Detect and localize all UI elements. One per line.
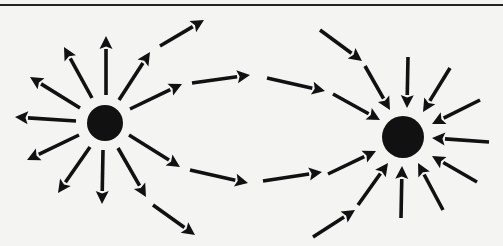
- arrow-shaft: [401, 179, 402, 218]
- arrow-shaft: [153, 205, 184, 227]
- arrow-shaft: [118, 148, 140, 186]
- arrowhead-icon: [401, 95, 414, 108]
- arrow-connecting: [263, 168, 322, 181]
- arrow-source-radial: [27, 135, 79, 160]
- arrow-connecting: [192, 70, 250, 83]
- arrow-shaft: [445, 139, 489, 142]
- arrow-connecting: [365, 66, 390, 110]
- arrow-source-radial: [129, 135, 180, 167]
- arrow-source-radial: [100, 36, 113, 95]
- arrow-source-radial: [15, 111, 76, 124]
- arrow-connecting: [320, 30, 362, 61]
- arrow-shaft: [320, 30, 352, 53]
- arrowhead-icon: [15, 111, 28, 124]
- arrow-sink-radial: [418, 163, 443, 210]
- arrow-connecting: [333, 94, 380, 120]
- arrow-shaft: [41, 84, 80, 108]
- arrow-connecting: [153, 205, 195, 235]
- arrowhead-icon: [236, 70, 250, 83]
- arrow-source-radial: [119, 52, 150, 100]
- sink-point: [382, 116, 424, 158]
- arrowhead-icon: [96, 191, 109, 204]
- arrow-source-radial: [118, 148, 146, 197]
- field-lines-diagram: [0, 0, 503, 246]
- arrow-shaft: [102, 150, 103, 191]
- arrowhead-icon: [311, 82, 325, 95]
- arrow-shaft: [444, 100, 480, 118]
- arrow-sink-radial: [423, 68, 450, 112]
- source-point: [87, 105, 123, 141]
- arrow-shaft: [333, 94, 369, 114]
- arrow-shaft: [313, 217, 344, 237]
- arrow-sink-radial: [401, 57, 414, 108]
- arrow-shaft: [263, 174, 309, 181]
- arrow-connecting: [160, 20, 204, 46]
- arrow-source-radial: [58, 147, 90, 193]
- arrow-shaft: [358, 174, 380, 205]
- arrow-shaft: [328, 157, 364, 174]
- arrow-shaft: [267, 78, 312, 88]
- arrow-sink-radial: [432, 132, 489, 145]
- arrow-source-radial: [30, 77, 80, 108]
- arrow-sink-radial: [432, 100, 480, 124]
- arrow-source-radial: [96, 150, 109, 204]
- arrow-shaft: [192, 77, 237, 83]
- arrow-shaft: [407, 57, 408, 95]
- arrow-shaft: [39, 135, 79, 154]
- arrow-source-radial: [64, 47, 92, 98]
- arrow-connecting: [328, 151, 376, 174]
- arrow-shaft: [129, 135, 169, 160]
- arrow-shaft: [28, 118, 76, 121]
- arrow-connecting: [313, 210, 355, 237]
- arrowhead-icon: [100, 36, 113, 49]
- arrowhead-icon: [395, 166, 408, 179]
- arrow-shaft: [70, 58, 92, 98]
- arrowhead-icon: [308, 168, 322, 181]
- arrow-shaft: [365, 66, 384, 99]
- arrow-sink-radial: [432, 156, 477, 182]
- arrowhead-icon: [432, 132, 445, 145]
- arrow-shaft: [443, 163, 477, 182]
- arrow-source-radial: [130, 84, 182, 109]
- arrow-shaft: [430, 68, 450, 101]
- arrow-shaft: [130, 90, 170, 109]
- diagram-frame: [0, 0, 503, 246]
- arrow-shaft: [119, 63, 143, 100]
- arrow-shaft: [65, 147, 90, 182]
- arrowhead-icon: [234, 174, 248, 187]
- arrow-shaft: [190, 170, 235, 180]
- arrow-shaft: [160, 27, 193, 46]
- arrow-shaft: [424, 174, 443, 210]
- arrow-sink-radial: [395, 166, 408, 218]
- arrow-connecting: [358, 163, 388, 205]
- arrow-connecting: [190, 170, 248, 186]
- arrow-connecting: [267, 78, 325, 94]
